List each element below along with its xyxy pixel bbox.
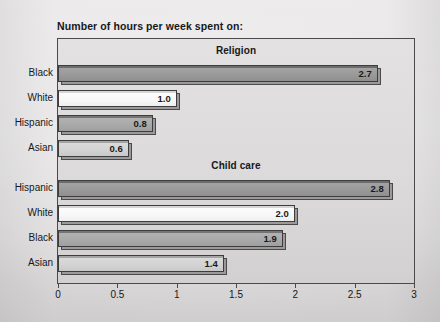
- bar-body: 2.0: [58, 205, 295, 222]
- x-tick-label: 3: [411, 289, 417, 300]
- bar-body: 0.8: [58, 115, 153, 132]
- plot-area: Religion2.71.00.80.6Child care2.82.01.91…: [57, 38, 415, 284]
- x-tick-label: 1.5: [229, 289, 243, 300]
- category-axis-labels: BlackWhiteHispanicAsianHispanicWhiteBlac…: [0, 38, 53, 284]
- bar-value-label: 0.6: [109, 143, 128, 154]
- x-tick-label: 2: [293, 289, 299, 300]
- bar-body: 1.4: [58, 255, 224, 272]
- bar-value-label: 1.0: [157, 93, 176, 104]
- bar-child-care-white: 2.0: [58, 205, 299, 226]
- panel-header-child-care: Child care: [58, 160, 414, 171]
- category-label-white: White: [0, 207, 53, 218]
- bar-religion-white: 1.0: [58, 90, 181, 111]
- category-label-black: Black: [0, 67, 53, 78]
- category-label-hispanic: Hispanic: [0, 117, 53, 128]
- chart-title: Number of hours per week spent on:: [57, 20, 243, 32]
- bar-body: 0.6: [58, 140, 129, 157]
- bar-value-label: 2.7: [358, 68, 377, 79]
- bar-value-label: 0.8: [133, 118, 152, 129]
- x-tick-label: 0.5: [110, 289, 124, 300]
- category-label-asian: Asian: [0, 142, 53, 153]
- x-tick-mark: [295, 284, 296, 288]
- bar-child-care-black: 1.9: [58, 230, 287, 251]
- x-tick-mark: [355, 284, 356, 288]
- bar-body: 2.8: [58, 180, 390, 197]
- bar-value-label: 2.0: [275, 208, 294, 219]
- bar-religion-black: 2.7: [58, 65, 382, 86]
- bar-body: 1.9: [58, 230, 283, 247]
- x-tick-mark: [177, 284, 178, 288]
- x-tick-mark: [117, 284, 118, 288]
- x-tick-label: 1: [174, 289, 180, 300]
- x-tick-label: 0: [55, 289, 61, 300]
- category-label-white: White: [0, 92, 53, 103]
- x-tick-label: 2.5: [348, 289, 362, 300]
- panel-header-religion: Religion: [58, 45, 414, 56]
- x-tick-mark: [236, 284, 237, 288]
- x-tick-mark: [414, 284, 415, 288]
- bar-religion-hispanic: 0.8: [58, 115, 157, 136]
- category-label-black: Black: [0, 232, 53, 243]
- bar-child-care-asian: 1.4: [58, 255, 228, 276]
- bar-religion-asian: 0.6: [58, 140, 133, 161]
- x-axis: 00.511.522.53: [57, 284, 415, 314]
- bar-value-label: 1.9: [263, 233, 282, 244]
- category-label-hispanic: Hispanic: [0, 182, 53, 193]
- category-label-asian: Asian: [0, 257, 53, 268]
- bar-value-label: 1.4: [204, 258, 223, 269]
- bar-body: 1.0: [58, 90, 177, 107]
- bar-child-care-hispanic: 2.8: [58, 180, 394, 201]
- bar-value-label: 2.8: [370, 183, 389, 194]
- x-tick-mark: [58, 284, 59, 288]
- bar-body: 2.7: [58, 65, 378, 82]
